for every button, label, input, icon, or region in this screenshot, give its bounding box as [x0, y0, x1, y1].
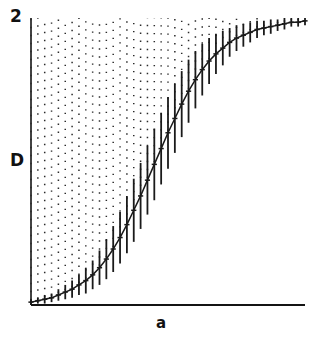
- chart-figure: 2 D a: [0, 0, 323, 342]
- y-axis-top-tick-label: 2: [10, 8, 22, 25]
- y-axis-label: D: [10, 152, 24, 169]
- dotted-columns: [31, 18, 298, 300]
- x-axis-label: a: [156, 316, 166, 331]
- plot-canvas: [0, 0, 323, 342]
